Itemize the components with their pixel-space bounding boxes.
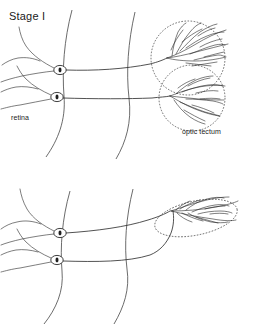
sharpened-terminal-arbor [171,197,238,223]
ganglion-cell-lower [51,92,63,101]
retina-arc-outer [116,12,135,159]
ganglion-cell-upper [54,228,66,237]
ganglion-cell-lower [51,255,63,264]
retina-boundary-arcs [46,10,135,159]
axon-bundle [63,211,174,261]
axon-upper [66,211,170,233]
panel-stage-2: Stage II Activity Dependent sharpened fi… [0,163,253,325]
retina-arc-inner [46,10,72,157]
axon-bundle [63,58,170,99]
axon-lower [63,96,170,99]
terminal-arbor-upper [167,23,228,66]
dendrites-upper-cell [1,189,54,245]
stage-2-drawing [0,163,253,325]
stage-1-drawing [0,0,253,163]
sharpened-field-outline [151,193,240,244]
dendrites-upper-cell [1,27,54,82]
retina-label: retina [11,114,29,122]
optic-tectum-label: optic tectum [182,128,221,136]
stage-1-title: Stage I [9,10,45,22]
panel-stage-1: Stage I retina optic tectum [0,0,253,163]
figure-root: Stage I retina optic tectum [0,0,253,325]
lower-terminal-field [159,65,225,131]
axon-lower [63,211,174,261]
terminal-arbor-lower [170,76,225,124]
retina-arc-outer [114,189,133,324]
ganglion-cell-upper [54,65,66,74]
